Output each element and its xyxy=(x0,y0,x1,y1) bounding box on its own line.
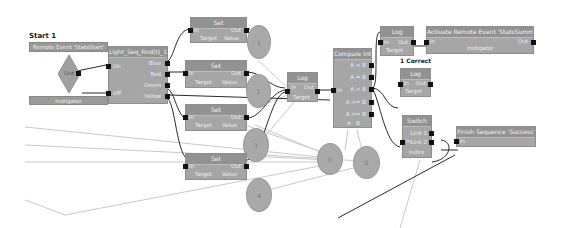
light-seq-out-pin-yellow[interactable] xyxy=(165,94,170,99)
light-seq-in-pin-on[interactable] xyxy=(106,64,111,69)
middle-log-node[interactable]: Log In Out Target xyxy=(287,72,318,102)
compare-out-pin-le[interactable] xyxy=(369,100,374,105)
compare-a-label: A xyxy=(347,120,351,127)
log-target-label: Target xyxy=(293,94,310,101)
log-out-label: Out xyxy=(398,39,408,46)
light-seq-out-blue: Blue xyxy=(149,60,161,67)
correct-log-node[interactable]: Log In Out Target xyxy=(400,68,431,97)
correct-caption: 1 Correct xyxy=(400,57,431,64)
log-out-pin[interactable] xyxy=(411,40,416,45)
light-seq-out-pin-red[interactable] xyxy=(165,72,170,77)
set-out-pin[interactable] xyxy=(244,164,249,169)
compare-out-le: A <= B xyxy=(346,99,366,106)
activate-in-pin[interactable] xyxy=(424,40,429,45)
set-node-3[interactable]: Set In Out Target Value xyxy=(185,104,247,131)
compare-b-label: B xyxy=(356,120,360,127)
compare-in-label: In xyxy=(337,87,342,94)
set-value-label: Value xyxy=(222,79,237,86)
log-out-pin[interactable] xyxy=(315,89,320,94)
light-seq-out-yellow: Yellow xyxy=(144,93,161,100)
switch-out-link2: Link 2 xyxy=(410,139,427,146)
log-target-label: Target xyxy=(405,88,422,95)
top-log-node[interactable]: Log In Out Target xyxy=(380,26,414,56)
switch-in-pin[interactable] xyxy=(400,140,405,145)
set-node-4[interactable]: Set In Out Target Value xyxy=(185,153,247,180)
compare-out-pin-lt[interactable] xyxy=(369,63,374,68)
event-diamond[interactable]: Out xyxy=(58,55,80,93)
log-title: Log xyxy=(381,27,413,38)
set-out-label: Out xyxy=(231,163,241,170)
activate-in-label: In xyxy=(430,38,435,45)
activate-out-label: Out xyxy=(518,38,528,45)
set-in-pin[interactable] xyxy=(183,115,188,120)
activate-out-pin[interactable] xyxy=(531,40,536,45)
diamond-out-label: Out xyxy=(64,70,74,77)
light-seq-out-red: Red xyxy=(151,71,161,78)
value-circle-1[interactable]: 1 xyxy=(247,25,271,59)
set-target-label: Target xyxy=(195,79,212,86)
set-value-label: Value xyxy=(222,122,237,129)
switch-gate-node[interactable]: Switch In Link 1 Link 2 Index xyxy=(402,115,432,158)
finish-sequence-title: Finish Sequence 'Success' xyxy=(457,127,535,138)
remote-event-start-bar[interactable]: Remote Event 'StatsStart' xyxy=(29,42,108,52)
log-target-label: Target xyxy=(386,47,403,54)
switch-out-pin-2[interactable] xyxy=(429,140,434,145)
set-value-label: Value xyxy=(224,35,239,42)
light-seq-out-pin-green[interactable] xyxy=(165,83,170,88)
log-in-pin[interactable] xyxy=(285,89,290,94)
set-in-label: In xyxy=(189,70,194,77)
set-target-label: Target xyxy=(200,35,217,42)
log-in-pin[interactable] xyxy=(378,40,383,45)
light-seq-title: Light_Seq_Rnd(t)_1 xyxy=(109,47,167,58)
activate-instigator-label: Instigator xyxy=(467,45,493,52)
log-title: Log xyxy=(401,69,430,80)
set-in-pin[interactable] xyxy=(183,164,188,169)
light-seq-in-on: On xyxy=(113,63,121,70)
log-out-pin[interactable] xyxy=(428,82,433,87)
set-out-label: Out xyxy=(231,27,241,34)
set-out-label: Out xyxy=(231,114,241,121)
value-circle-4[interactable]: 4 xyxy=(246,178,272,212)
compare-out-ge: A >= B xyxy=(346,111,366,118)
compare-out-pin-eq[interactable] xyxy=(369,75,374,80)
compare-out-pin-ge[interactable] xyxy=(369,112,374,117)
compare-out-eq: A = B xyxy=(350,74,366,81)
set-value-label: Value xyxy=(222,171,237,178)
log-out-label: Out xyxy=(416,80,426,87)
switch-out-pin-1[interactable] xyxy=(429,131,434,136)
compare-title: Compare Int xyxy=(334,49,371,60)
set-in-label: In xyxy=(194,27,199,34)
set-out-pin[interactable] xyxy=(244,115,249,120)
finish-sequence-node[interactable]: Finish Sequence 'Success' In xyxy=(456,126,536,147)
kismet-canvas[interactable]: Start 1 Remote Event 'StatsStart' Out In… xyxy=(0,0,563,228)
int-var-circle-2[interactable]: 0 xyxy=(353,146,380,179)
compare-int-node[interactable]: Compare Int In A < B A = B A > B A <= B … xyxy=(333,48,372,128)
compare-out-lt: A < B xyxy=(350,62,366,69)
light-seq-node[interactable]: Light_Seq_Rnd(t)_1 On Off Blue Red Green… xyxy=(108,46,168,104)
finish-in-pin[interactable] xyxy=(454,139,459,144)
start-caption: Start 1 xyxy=(29,32,56,40)
set-out-pin[interactable] xyxy=(244,71,249,76)
instigator-bar[interactable]: Instigator xyxy=(29,96,108,105)
light-seq-out-pin-blue[interactable] xyxy=(165,61,170,66)
light-seq-in-pin-off[interactable] xyxy=(106,91,111,96)
set-out-label: Out xyxy=(231,70,241,77)
set-node-1[interactable]: Set In Out Target Value xyxy=(190,17,247,43)
set-node-2[interactable]: Set In Out Target Value xyxy=(185,60,247,88)
compare-in-pin[interactable] xyxy=(331,88,336,93)
log-in-pin[interactable] xyxy=(398,82,403,87)
light-seq-in-off: Off xyxy=(113,90,121,97)
log-title: Log xyxy=(288,73,317,84)
set-target-label: Target xyxy=(195,171,212,178)
compare-out-pin-gt[interactable] xyxy=(369,87,374,92)
set-in-pin[interactable] xyxy=(183,71,188,76)
log-in-label: In xyxy=(384,39,389,46)
diamond-out-pin[interactable] xyxy=(76,71,81,76)
log-in-label: In xyxy=(404,80,409,87)
activate-remote-event-node[interactable]: Activate Remote Event 'StatsSummary' In … xyxy=(426,26,534,54)
log-in-label: In xyxy=(291,84,296,91)
int-var-circle-1[interactable]: 0 xyxy=(317,143,343,175)
set-in-pin[interactable] xyxy=(188,28,193,33)
value-circle-2[interactable]: 2 xyxy=(246,74,271,108)
activate-event-title: Activate Remote Event 'StatsSummary' xyxy=(427,27,533,38)
